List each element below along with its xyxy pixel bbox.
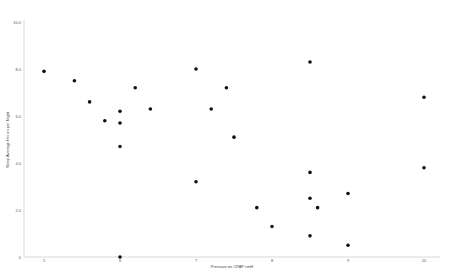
data-point (308, 60, 312, 64)
data-point (308, 234, 312, 238)
data-point (73, 79, 77, 83)
data-point (194, 67, 198, 71)
x-tick-label: 8 (271, 258, 274, 263)
x-tick-label: 5 (43, 258, 46, 263)
x-tick-label: 9 (347, 258, 350, 263)
x-axis-title: Pressure on CPAP cmH (211, 264, 254, 269)
data-point (118, 145, 122, 149)
y-tick-label: 2.0 (15, 208, 21, 213)
data-point (118, 110, 122, 114)
data-point (346, 192, 350, 196)
y-axis-ticks: 02.04.06.08.010.0 (13, 20, 22, 260)
data-point (133, 86, 137, 90)
data-point (316, 206, 320, 210)
data-point (308, 171, 312, 175)
scatter-chart: 02.04.06.08.010.0 5678910 Pressure on CP… (0, 0, 451, 274)
y-tick-label: 0 (19, 255, 22, 260)
data-point (209, 107, 213, 111)
data-point (42, 70, 46, 74)
y-tick-label: 6.0 (15, 114, 21, 119)
data-point (346, 243, 350, 247)
x-axis-ticks: 5678910 (43, 258, 427, 263)
data-point (308, 196, 312, 200)
data-point (270, 225, 274, 229)
plot-area (24, 20, 440, 257)
data-point (149, 107, 153, 111)
data-points (42, 60, 426, 259)
y-tick-label: 10.0 (13, 20, 22, 25)
data-point (118, 121, 122, 125)
data-point (103, 119, 107, 123)
data-point (422, 166, 426, 170)
data-point (255, 206, 259, 210)
data-point (88, 100, 92, 104)
y-axis-title: Sleep Average Hrs on per Night (5, 111, 10, 168)
y-tick-label: 4.0 (15, 161, 21, 166)
data-point (225, 86, 229, 90)
x-tick-label: 7 (195, 258, 198, 263)
data-point (194, 180, 198, 184)
data-point (422, 95, 426, 99)
y-tick-label: 8.0 (15, 67, 21, 72)
data-point (232, 135, 236, 139)
x-tick-label: 10 (422, 258, 427, 263)
data-point (118, 255, 122, 259)
